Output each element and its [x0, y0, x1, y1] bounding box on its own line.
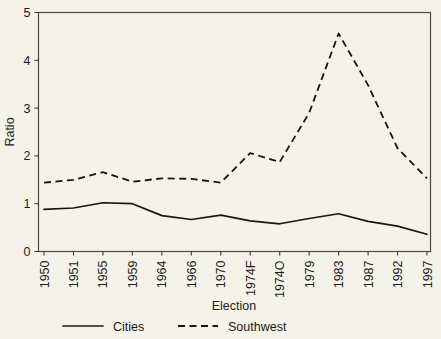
- y-tick-label: 3: [24, 102, 31, 116]
- x-tick-label: 1979: [303, 260, 317, 288]
- x-tick-label: 1992: [391, 260, 405, 288]
- x-tick-label: 1974F: [244, 260, 258, 296]
- y-tick-label: 1: [24, 197, 31, 211]
- ratio-by-election-line-chart: 012345 19501951195519591964196619701974F…: [0, 0, 441, 339]
- x-tick-label: 1970: [214, 260, 228, 288]
- x-tick-label: 1966: [185, 260, 199, 288]
- x-tick-label: 1955: [96, 260, 110, 288]
- x-tick-label: 1951: [67, 260, 81, 288]
- x-tick-label: 1987: [362, 260, 376, 288]
- legend-label-southwest: Southwest: [228, 320, 287, 334]
- x-tick-label: 1997: [421, 260, 435, 288]
- x-tick-label: 1950: [38, 260, 52, 288]
- x-tick-label: 1964: [155, 260, 169, 288]
- legend-label-cities: Cities: [113, 320, 144, 334]
- y-tick-label: 0: [24, 245, 31, 259]
- x-tick-label: 1983: [332, 260, 346, 288]
- y-axis-title: Ratio: [3, 117, 17, 146]
- x-tick-label: 1959: [126, 260, 140, 288]
- x-axis-title: Election: [212, 299, 257, 313]
- chart-container: 012345 19501951195519591964196619701974F…: [0, 0, 441, 339]
- y-tick-label: 2: [24, 149, 31, 163]
- x-tick-label: 1974O: [273, 260, 287, 298]
- y-tick-label: 5: [24, 6, 31, 20]
- y-tick-label: 4: [24, 54, 31, 68]
